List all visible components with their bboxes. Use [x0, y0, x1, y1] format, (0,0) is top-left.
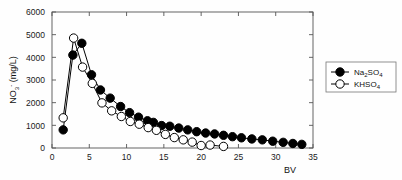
data-point-Na2SO4-14[interactable] — [184, 126, 192, 134]
data-point-KHSO4-17[interactable] — [219, 142, 227, 150]
y-tick-label-3000: 3000 — [26, 75, 45, 85]
data-point-Na2SO4-25[interactable] — [289, 139, 297, 147]
data-point-Na2SO4-15[interactable] — [192, 127, 200, 135]
chart-figure: 051015202530350100020003000400050006000B… — [0, 0, 402, 180]
y-tick-label-0: 0 — [40, 143, 45, 153]
data-point-Na2SO4-12[interactable] — [166, 122, 174, 130]
data-point-KHSO4-15[interactable] — [197, 141, 205, 149]
data-point-KHSO4-3[interactable] — [88, 79, 96, 87]
data-point-KHSO4-11[interactable] — [161, 130, 169, 138]
data-point-Na2SO4-7[interactable] — [125, 108, 133, 116]
data-point-KHSO4-4[interactable] — [98, 99, 106, 107]
x-tick-label-30: 30 — [271, 152, 281, 162]
data-point-Na2SO4-26[interactable] — [298, 140, 306, 148]
x-tick-label-20: 20 — [196, 152, 206, 162]
x-tick-label-15: 15 — [159, 152, 169, 162]
data-point-KHSO4-8[interactable] — [135, 120, 143, 128]
data-point-Na2SO4-17[interactable] — [210, 130, 218, 138]
y-tick-label-6000: 6000 — [26, 7, 45, 17]
y-tick-label-4000: 4000 — [26, 53, 45, 63]
legend-label-Na2SO4[interactable]: Na2SO4 — [354, 68, 383, 78]
x-tick-label-0: 0 — [50, 152, 55, 162]
legend-marker-Na2SO4 — [336, 68, 344, 76]
data-point-Na2SO4-23[interactable] — [269, 137, 277, 145]
data-point-Na2SO4-18[interactable] — [219, 131, 227, 139]
data-point-Na2SO4-13[interactable] — [175, 124, 183, 132]
legend-label-KHSO4[interactable]: KHSO4 — [354, 80, 381, 90]
data-point-Na2SO4-19[interactable] — [228, 132, 236, 140]
x-tick-label-10: 10 — [122, 152, 132, 162]
data-point-Na2SO4-20[interactable] — [237, 134, 245, 142]
data-point-KHSO4-2[interactable] — [78, 63, 86, 71]
x-tick-label-25: 25 — [234, 152, 244, 162]
breakthrough-curve-chart: 051015202530350100020003000400050006000B… — [0, 0, 402, 180]
data-point-Na2SO4-24[interactable] — [279, 138, 287, 146]
data-point-KHSO4-12[interactable] — [170, 133, 178, 141]
data-point-KHSO4-10[interactable] — [152, 126, 160, 134]
data-point-KHSO4-5[interactable] — [107, 107, 115, 115]
data-point-Na2SO4-2[interactable] — [78, 39, 86, 47]
data-point-KHSO4-1[interactable] — [69, 34, 77, 42]
data-point-KHSO4-13[interactable] — [179, 136, 187, 144]
data-point-KHSO4-16[interactable] — [206, 141, 214, 149]
data-point-KHSO4-6[interactable] — [117, 112, 125, 120]
data-point-Na2SO4-22[interactable] — [258, 136, 266, 144]
data-point-KHSO4-9[interactable] — [144, 123, 152, 131]
data-point-Na2SO4-5[interactable] — [106, 94, 114, 102]
y-tick-label-5000: 5000 — [26, 30, 45, 40]
y-tick-label-1000: 1000 — [26, 121, 45, 131]
x-tick-label-5: 5 — [87, 152, 92, 162]
y-axis-title: NO3- (mg/L) — [8, 56, 20, 103]
data-point-Na2SO4-21[interactable] — [248, 135, 256, 143]
x-tick-label-35: 35 — [308, 152, 318, 162]
data-point-Na2SO4-6[interactable] — [116, 102, 124, 110]
data-point-KHSO4-0[interactable] — [59, 114, 67, 122]
y-tick-label-2000: 2000 — [26, 98, 45, 108]
data-point-Na2SO4-1[interactable] — [69, 51, 77, 59]
data-point-Na2SO4-0[interactable] — [59, 126, 67, 134]
data-point-KHSO4-14[interactable] — [188, 138, 196, 146]
x-axis-title: BV — [284, 165, 296, 175]
data-point-KHSO4-7[interactable] — [126, 117, 134, 125]
data-point-Na2SO4-16[interactable] — [201, 129, 209, 137]
legend-marker-KHSO4 — [336, 80, 344, 88]
